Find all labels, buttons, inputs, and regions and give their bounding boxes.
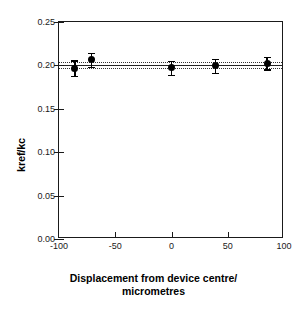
error-bar-cap-top — [264, 57, 271, 58]
x-axis-title-line1: Displacement from device centre/ — [70, 272, 237, 284]
y-tick-mark-inner — [59, 196, 64, 197]
x-axis-title: Displacement from device centre/ microme… — [0, 272, 307, 298]
y-tick-label: 0.05 — [37, 191, 55, 200]
error-bar-cap-bottom — [264, 69, 271, 70]
data-point-marker — [168, 64, 175, 71]
error-bar-cap-top — [168, 61, 175, 62]
y-tick-mark-inner — [59, 109, 64, 110]
y-tick-mark-inner — [59, 239, 64, 240]
y-tick-label: 0.20 — [37, 61, 55, 70]
y-tick-label: 0.25 — [37, 18, 55, 27]
x-tick-mark — [115, 232, 116, 237]
y-tick-mark-inner — [59, 152, 64, 153]
error-bar-cap-top — [212, 59, 219, 60]
x-tick-mark — [172, 232, 173, 237]
x-tick-label: -50 — [109, 242, 122, 251]
data-point-marker — [264, 60, 271, 67]
error-bar-cap-top — [88, 53, 95, 54]
y-tick-mark-inner — [59, 22, 64, 23]
x-tick-mark — [228, 232, 229, 237]
x-axis-title-line2: micrometres — [0, 285, 307, 298]
x-tick-label: 100 — [276, 242, 291, 251]
x-tick-label: 50 — [223, 242, 233, 251]
data-point-marker — [71, 65, 78, 72]
y-tick-label: 0.15 — [37, 104, 55, 113]
error-bar-cap-bottom — [71, 76, 78, 77]
x-tick-label: -100 — [50, 242, 68, 251]
y-tick-label: 0.10 — [37, 148, 55, 157]
error-bar-cap-bottom — [88, 67, 95, 68]
error-bar-cap-top — [71, 60, 78, 61]
y-axis-title: kref/kc — [15, 137, 27, 171]
x-tick-label: 0 — [169, 242, 174, 251]
chart-figure: kref/kc 0.000.050.100.150.200.25 -100-50… — [0, 0, 307, 309]
error-bar-cap-bottom — [212, 73, 219, 74]
plot-area: 0.000.050.100.150.200.25 -100-50050100 — [58, 21, 283, 238]
error-bar-cap-bottom — [168, 75, 175, 76]
y-tick-mark-inner — [59, 65, 64, 66]
